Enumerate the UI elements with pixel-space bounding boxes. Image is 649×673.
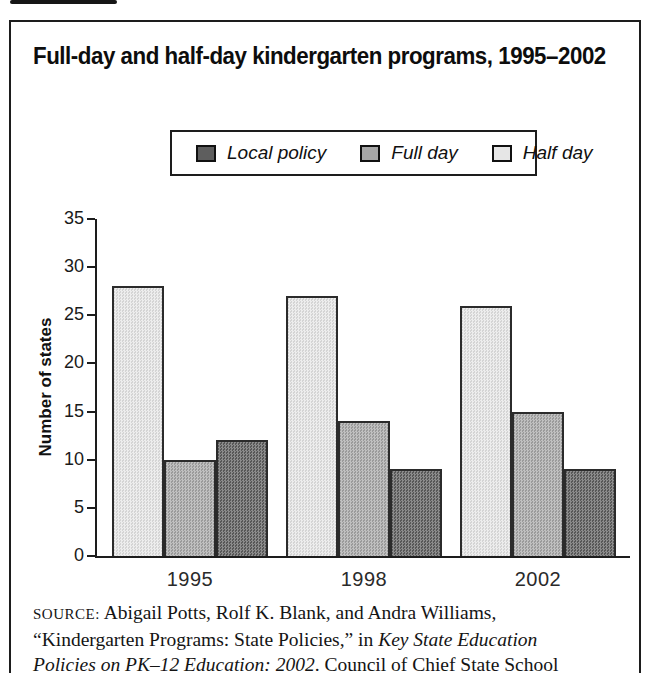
y-tick-20	[87, 362, 95, 364]
bar-local-policy-1995	[216, 440, 268, 558]
bar-half-day-2002	[460, 306, 512, 558]
y-tick-10	[87, 459, 95, 461]
source-label: SOURCE:	[33, 606, 100, 622]
bar-full-day-1995	[164, 460, 216, 558]
y-tick-25	[87, 314, 95, 316]
source-text: “Kindergarten Programs: State Policies,”…	[33, 629, 378, 650]
x-tick-label-1998: 1998	[286, 568, 442, 591]
source-book-title: Policies on PK–12 Education: 2002	[33, 654, 315, 673]
bar-full-day-1998	[338, 421, 390, 558]
y-tick-0	[87, 555, 95, 557]
bar-local-policy-1998	[390, 469, 442, 558]
source-line-1: SOURCE: Abigail Potts, Rolf K. Blank, an…	[33, 600, 623, 627]
source-note: SOURCE: Abigail Potts, Rolf K. Blank, an…	[33, 600, 623, 673]
bar-half-day-1995	[112, 286, 164, 558]
y-axis-title: Number of states	[36, 217, 56, 557]
y-axis-line	[95, 219, 97, 558]
bar-local-policy-2002	[564, 469, 616, 558]
y-tick-30	[87, 266, 95, 268]
source-line-3: Policies on PK–12 Education: 2002. Counc…	[33, 652, 623, 673]
source-text: Abigail Potts, Rolf K. Blank, and Andra …	[100, 602, 496, 623]
bar-full-day-2002	[512, 412, 564, 558]
source-text: . Council of Chief State School	[315, 654, 559, 673]
chart-area: 05101520253035Number of states1995199820…	[0, 0, 649, 673]
y-tick-35	[87, 218, 95, 220]
source-book-title: Key State Education	[378, 629, 537, 650]
x-axis-line	[95, 556, 630, 558]
x-tick-label-1995: 1995	[112, 568, 268, 591]
source-line-2: “Kindergarten Programs: State Policies,”…	[33, 627, 623, 652]
y-tick-15	[87, 411, 95, 413]
y-tick-5	[87, 507, 95, 509]
x-tick-label-2002: 2002	[460, 568, 616, 591]
bar-half-day-1998	[286, 296, 338, 558]
